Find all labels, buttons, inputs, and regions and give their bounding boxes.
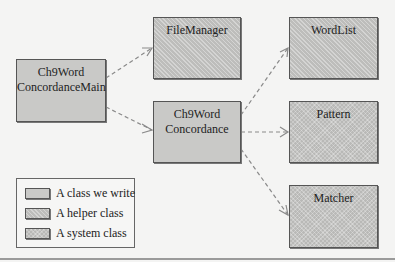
class-name-line2: Concordance bbox=[154, 122, 240, 137]
bottom-divider bbox=[0, 258, 395, 260]
class-name-line2: ConcordanceMain bbox=[17, 80, 105, 95]
class-name-line1: Ch9Word bbox=[154, 107, 240, 122]
class-name: WordList bbox=[290, 23, 377, 38]
class-name-line1: Ch9Word bbox=[17, 65, 105, 80]
legend-swatch-system bbox=[25, 228, 50, 239]
class-box-matcher: Matcher bbox=[289, 185, 378, 248]
class-box-ch9wordconcordance: Ch9Word Concordance bbox=[153, 101, 241, 163]
legend: A class we write A helper class A system… bbox=[16, 178, 135, 248]
legend-label: A class we write bbox=[56, 186, 135, 201]
class-name: Pattern bbox=[290, 107, 377, 122]
legend-swatch-helper bbox=[25, 208, 50, 219]
class-box-filemanager: FileManager bbox=[153, 17, 241, 79]
legend-swatch-ours bbox=[25, 188, 50, 199]
class-box-wordlist: WordList bbox=[289, 17, 378, 79]
legend-item-system: A system class bbox=[25, 225, 127, 241]
legend-item-ours: A class we write bbox=[25, 185, 135, 201]
class-name: Matcher bbox=[290, 191, 377, 206]
class-box-pattern: Pattern bbox=[289, 101, 378, 163]
class-name: FileManager bbox=[154, 23, 240, 38]
legend-item-helper: A helper class bbox=[25, 205, 123, 221]
legend-label: A system class bbox=[56, 226, 127, 241]
legend-label: A helper class bbox=[56, 206, 123, 221]
class-box-ch9wordconcordancemain: Ch9Word ConcordanceMain bbox=[16, 59, 106, 122]
